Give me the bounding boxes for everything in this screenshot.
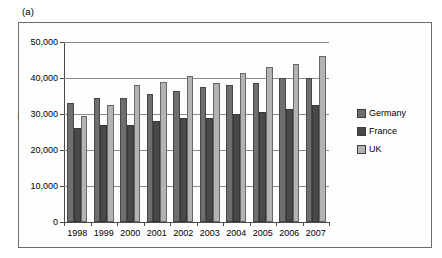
bar xyxy=(226,85,233,222)
y-axis-tick-label: 30,000 xyxy=(30,110,58,119)
bar-group xyxy=(250,42,277,222)
bar-group xyxy=(276,42,303,222)
bar xyxy=(81,116,88,222)
bar xyxy=(240,73,247,222)
bar xyxy=(312,105,319,222)
bar xyxy=(233,114,240,222)
y-axis-tick-label: 40,000 xyxy=(30,74,58,83)
x-axis-tick-label: 2001 xyxy=(147,228,167,238)
bar xyxy=(147,94,154,222)
x-axis-tick-label: 2006 xyxy=(279,228,299,238)
legend-item-uk: UK xyxy=(357,144,427,154)
bar-group xyxy=(170,42,197,222)
legend-label: France xyxy=(369,127,397,136)
x-axis-tick-label: 2005 xyxy=(253,228,273,238)
x-axis-tick xyxy=(170,222,171,226)
x-axis-tick xyxy=(223,222,224,226)
y-axis-tick-label: 10,000 xyxy=(30,182,58,191)
x-axis-tick xyxy=(64,222,65,226)
bar-group xyxy=(197,42,224,222)
x-axis: 1998199920002001200220032004200520062007 xyxy=(64,222,329,242)
bar xyxy=(200,87,207,222)
bar xyxy=(187,76,194,222)
x-axis-tick-label: 2002 xyxy=(173,228,193,238)
y-axis-tick-label: 0 xyxy=(53,218,58,227)
legend-label: UK xyxy=(369,145,382,154)
x-axis-tick-label: 1998 xyxy=(67,228,87,238)
panel-label: (a) xyxy=(22,6,34,17)
x-axis-tick xyxy=(91,222,92,226)
x-axis-tick-label: 2007 xyxy=(306,228,326,238)
bar xyxy=(259,112,266,222)
legend-item-france: France xyxy=(357,126,427,136)
x-axis-tick xyxy=(144,222,145,226)
legend-label: Germany xyxy=(369,109,406,118)
x-axis-tick xyxy=(276,222,277,226)
bar xyxy=(67,103,74,222)
bar xyxy=(253,83,260,222)
bar xyxy=(94,98,101,222)
bar xyxy=(279,78,286,222)
chart-legend: GermanyFranceUK xyxy=(357,108,427,162)
x-axis-tick-label: 1999 xyxy=(94,228,114,238)
bar xyxy=(206,118,213,222)
x-axis-tick-label: 2004 xyxy=(226,228,246,238)
legend-swatch-icon xyxy=(357,145,366,154)
y-axis-tick-label: 20,000 xyxy=(30,146,58,155)
bar xyxy=(120,98,127,222)
x-axis-tick-label: 2000 xyxy=(120,228,140,238)
bar xyxy=(127,125,134,222)
bar-group xyxy=(144,42,171,222)
bar xyxy=(100,125,107,222)
bar-group xyxy=(303,42,330,222)
legend-item-germany: Germany xyxy=(357,108,427,118)
x-axis-tick-label: 2003 xyxy=(200,228,220,238)
legend-swatch-icon xyxy=(357,109,366,118)
bar xyxy=(266,67,273,222)
figure-panel: (a) Euros 010,00020,00030,00040,00050,00… xyxy=(0,0,442,258)
bar-group xyxy=(223,42,250,222)
bar xyxy=(153,121,160,222)
bar-group xyxy=(91,42,118,222)
bar-group xyxy=(64,42,91,222)
bar xyxy=(319,56,326,222)
plot-area: 010,00020,00030,00040,00050,000 xyxy=(64,42,329,222)
bar xyxy=(173,91,180,222)
bar-series-container xyxy=(64,42,329,222)
bar xyxy=(160,82,167,222)
x-axis-tick xyxy=(250,222,251,226)
bar-group xyxy=(117,42,144,222)
x-axis-tick xyxy=(197,222,198,226)
y-axis-tick-label: 50,000 xyxy=(30,38,58,47)
bar xyxy=(286,109,293,222)
bar xyxy=(107,105,114,222)
bar xyxy=(134,85,141,222)
bar xyxy=(306,78,313,222)
bar xyxy=(293,64,300,222)
x-axis-tick xyxy=(329,222,330,226)
x-axis-tick xyxy=(117,222,118,226)
bar xyxy=(180,118,187,222)
bar xyxy=(213,83,220,222)
bar xyxy=(74,128,81,222)
x-axis-tick xyxy=(303,222,304,226)
legend-swatch-icon xyxy=(357,127,366,136)
